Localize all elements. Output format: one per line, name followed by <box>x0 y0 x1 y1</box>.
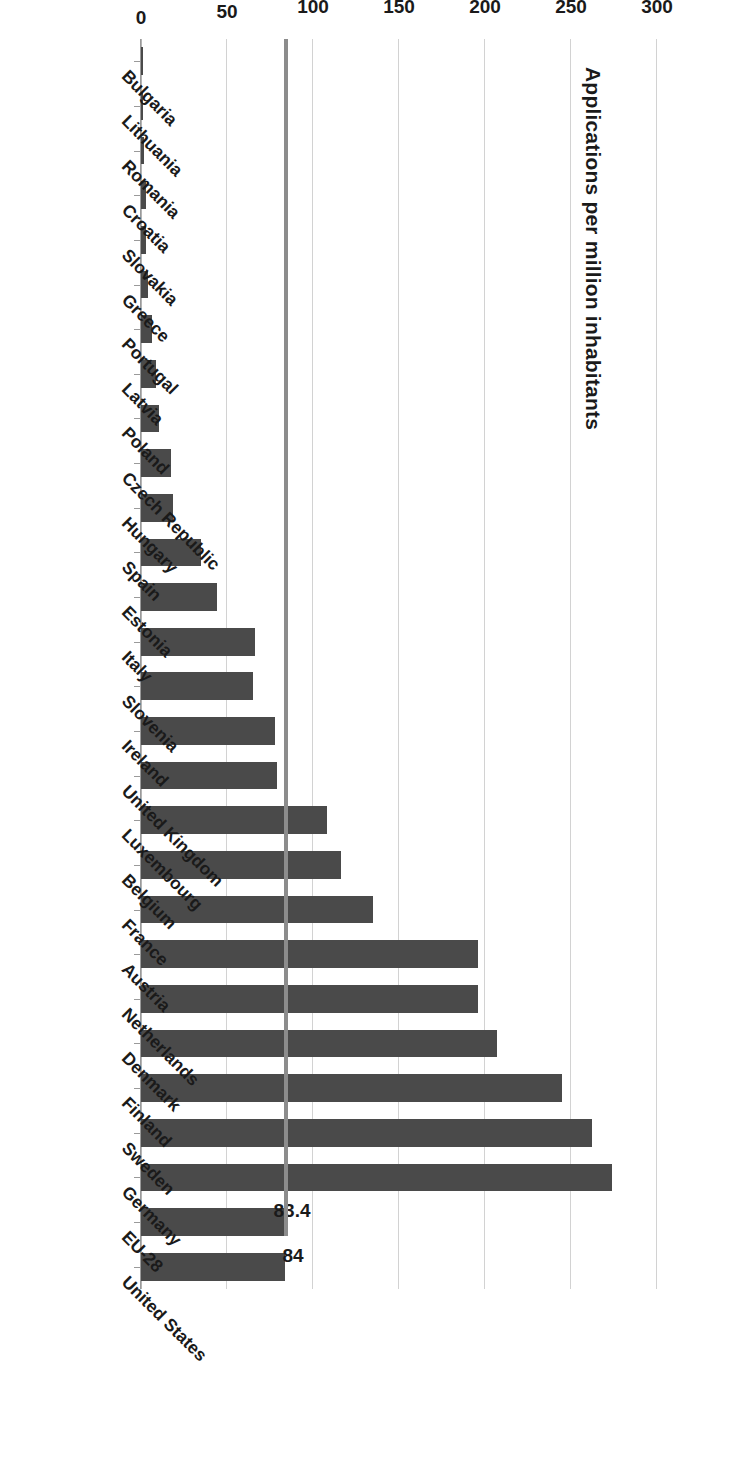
category-axis-tick <box>134 195 141 196</box>
category-axis-tick <box>134 776 141 777</box>
bar-slot <box>141 896 657 924</box>
category-axis-tick <box>134 329 141 330</box>
bar[interactable] <box>141 1074 562 1102</box>
category-axis: BulgariaLithuaniaRomaniaCroatiaSlovakiaG… <box>140 39 141 1289</box>
category-axis-tick <box>134 106 141 107</box>
category-axis-tick <box>134 508 141 509</box>
bar-slot <box>141 1074 657 1102</box>
value-axis-tick-label: 300 <box>641 0 673 18</box>
bar-slot <box>141 47 657 75</box>
value-axis-tick-label: 150 <box>383 0 415 18</box>
category-axis-tick <box>134 999 141 1000</box>
category-axis-tick <box>134 954 141 955</box>
bar-slot <box>141 806 657 834</box>
category-axis-tick <box>134 865 141 866</box>
bar-slot <box>141 985 657 1013</box>
bar[interactable] <box>141 672 253 700</box>
bar-slot <box>141 1030 657 1058</box>
bar-value-label: 84 <box>283 1245 304 1267</box>
bar-slot <box>141 583 657 611</box>
category-axis-tick <box>134 61 141 62</box>
category-axis-tick <box>134 418 141 419</box>
category-axis-tick <box>134 642 141 643</box>
plot-area: 83.484 <box>141 39 657 1289</box>
bar[interactable] <box>141 1030 497 1058</box>
category-axis-tick <box>134 463 141 464</box>
category-axis-tick <box>134 374 141 375</box>
category-axis-tick <box>134 1088 141 1089</box>
bar[interactable] <box>141 940 478 968</box>
value-axis-tick-label: 50 <box>216 1 237 23</box>
bar[interactable] <box>141 985 478 1013</box>
bar-slot <box>141 315 657 343</box>
category-axis-tick <box>134 1222 141 1223</box>
category-axis-tick <box>134 820 141 821</box>
category-axis-tick <box>134 686 141 687</box>
bar-series: 83.484 <box>141 39 657 1289</box>
bar-slot <box>141 940 657 968</box>
bar-slot <box>141 226 657 254</box>
category-axis-tick <box>134 597 141 598</box>
eu28-reference-line <box>284 39 288 1236</box>
bar-slot <box>141 672 657 700</box>
value-axis-tick-label: 250 <box>555 0 587 18</box>
category-axis-tick <box>134 910 141 911</box>
category-axis-tick <box>134 1267 141 1268</box>
category-axis-tick <box>134 1177 141 1178</box>
chart-page: Applications per million inhabitants 83.… <box>0 0 730 1469</box>
value-axis-tick-label: 200 <box>469 0 501 18</box>
bar-slot <box>141 449 657 477</box>
bar-slot <box>141 762 657 790</box>
bar-slot <box>141 1119 657 1147</box>
bar-slot <box>141 494 657 522</box>
bar-slot <box>141 181 657 209</box>
category-axis-tick <box>134 1133 141 1134</box>
bar-slot <box>141 717 657 745</box>
value-axis-tick-label: 0 <box>136 7 147 29</box>
bar[interactable] <box>141 1164 612 1192</box>
bar-slot <box>141 1164 657 1192</box>
bar-slot <box>141 92 657 120</box>
category-axis-tick <box>134 240 141 241</box>
category-axis-tick <box>134 552 141 553</box>
bar-slot <box>141 137 657 165</box>
category-axis-tick <box>134 731 141 732</box>
category-axis-tick <box>134 1043 141 1044</box>
bar-slot <box>141 360 657 388</box>
bar-slot: 84 <box>141 1253 657 1281</box>
bar[interactable] <box>141 47 143 75</box>
bar-slot: 83.4 <box>141 1208 657 1236</box>
bar-chart-figure: Applications per million inhabitants 83.… <box>65 29 665 1339</box>
bar[interactable] <box>141 1119 592 1147</box>
category-axis-tick <box>134 285 141 286</box>
rotated-figure-wrapper: Applications per million inhabitants 83.… <box>65 29 665 1339</box>
bar-slot <box>141 405 657 433</box>
bar-slot <box>141 271 657 299</box>
bar-value-label: 83.4 <box>274 1200 311 1222</box>
bar-slot <box>141 628 657 656</box>
category-axis-tick <box>134 151 141 152</box>
value-axis-tick-label: 100 <box>297 0 329 18</box>
